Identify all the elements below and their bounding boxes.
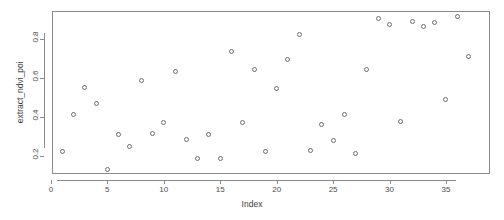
- scatter-plot: 05101520253035 0.20.40.60.8 Index extrac…: [0, 0, 504, 220]
- x-axis-tick-label: 15: [216, 186, 225, 194]
- plot-frame: [52, 11, 490, 174]
- y-axis-tick-label: 0.8: [30, 33, 41, 41]
- x-axis-tick: [51, 180, 52, 184]
- x-axis-tick-label: 25: [329, 186, 338, 194]
- y-axis-tick-label-text: 0.4: [32, 109, 40, 120]
- x-axis-tick-label: 30: [385, 186, 394, 194]
- x-axis-line: [57, 180, 456, 181]
- y-axis-line: [44, 33, 45, 148]
- x-axis-tick: [164, 180, 165, 184]
- y-axis-tick-label-text: 0.6: [32, 70, 40, 81]
- x-axis-tick: [333, 180, 334, 184]
- y-axis-tick-label-text: 0.2: [32, 148, 40, 159]
- x-axis-tick: [390, 180, 391, 184]
- y-axis-tick-label-text: 0.8: [32, 32, 40, 43]
- y-axis-tick-label: 0.4: [30, 111, 41, 119]
- x-axis-title: Index: [0, 200, 504, 209]
- x-axis-tick-label: 20: [272, 186, 281, 194]
- y-axis-tick-label: 0.2: [30, 150, 41, 158]
- x-axis-tick: [277, 180, 278, 184]
- x-axis-tick-label: 10: [159, 186, 168, 194]
- y-axis-title: extract_ndvi_poi: [16, 32, 25, 152]
- x-axis-tick-label: 5: [105, 186, 109, 194]
- x-axis-tick-label: 35: [442, 186, 451, 194]
- x-axis-tick-label: 0: [49, 186, 53, 194]
- x-axis-tick: [446, 180, 447, 184]
- x-axis-tick: [107, 180, 108, 184]
- y-axis-tick-label: 0.6: [30, 72, 41, 80]
- x-axis-tick: [220, 180, 221, 184]
